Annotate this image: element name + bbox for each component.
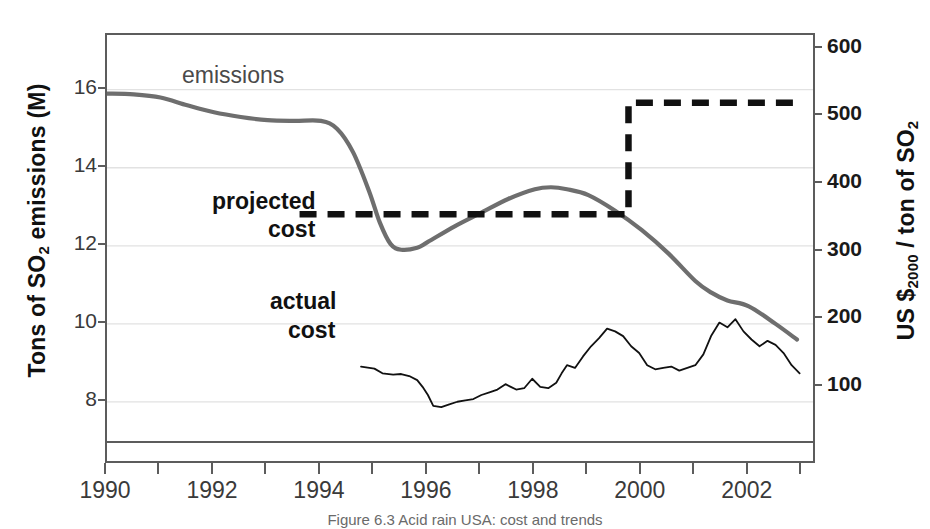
series-layer [107, 94, 800, 408]
x-axis-riser [813, 443, 815, 461]
figure-caption: Figure 6.3 Acid rain USA: cost and trend… [0, 511, 930, 529]
y-axis-left-tick-mark [98, 321, 105, 323]
x-axis-tick-mark [318, 463, 320, 474]
y-axis-left-tick-label: 8 [53, 387, 97, 411]
y-axis-right-tick-mark [815, 181, 822, 183]
y-axis-right-tick-label: 600 [827, 34, 887, 58]
y-axis-left-title-prefix: Tons of SO [24, 255, 50, 378]
x-axis-tick-mark [532, 463, 534, 474]
x-axis-tick-label: 2000 [600, 477, 680, 504]
x-axis-tick-label: 1996 [386, 477, 466, 504]
x-axis-tick-mark [478, 463, 480, 474]
annotation-actual-cost-line1: actual [270, 288, 336, 315]
acid-rain-figure: Tons of SO2 emissions (M) US $2000 / ton… [0, 0, 930, 529]
y-axis-right-tick-mark [815, 384, 822, 386]
annotation-projected-cost-line1: projected [212, 188, 316, 215]
y-axis-right-title-suffix: / ton of SO [893, 129, 919, 254]
y-axis-left-title-sub: 2 [35, 246, 52, 255]
y-axis-left-tick-label: 12 [53, 231, 97, 255]
x-axis-tick-label: 1994 [279, 477, 359, 504]
x-axis-riser [105, 443, 107, 461]
y-axis-right-tick-mark [815, 249, 822, 251]
y-axis-left-title-suffix: emissions (M) [24, 83, 50, 246]
y-axis-right-title: US $2000 / ton of SO2 [893, 31, 920, 431]
y-axis-left-tick-mark [98, 243, 105, 245]
y-axis-right-tick-label: 300 [827, 237, 887, 261]
y-axis-right-tick-label: 100 [827, 372, 887, 396]
gridlines [107, 90, 813, 402]
y-axis-left-tick-mark [98, 399, 105, 401]
series-projected-cost [300, 103, 800, 215]
y-axis-right-title-prefix: US $ [893, 288, 919, 340]
series-actual-cost [361, 319, 800, 407]
x-axis-tick-mark [371, 463, 373, 474]
x-axis-tick-mark [639, 463, 641, 474]
x-axis-tick-mark [692, 463, 694, 474]
annotation-actual-cost-line2: cost [288, 317, 335, 344]
y-axis-left-tick-label: 16 [53, 75, 97, 99]
y-axis-left-tick-label: 10 [53, 309, 97, 333]
y-axis-left-tick-mark [98, 165, 105, 167]
x-axis-tick-label: 1998 [493, 477, 573, 504]
y-axis-right-tick-label: 400 [827, 169, 887, 193]
y-axis-right-tick-mark [815, 46, 822, 48]
x-axis-tick-mark [746, 463, 748, 474]
y-axis-right-title-sub: 2000 [904, 254, 921, 288]
x-axis-tick-mark [264, 463, 266, 474]
annotation-emissions: emissions [182, 62, 284, 89]
y-axis-right-tick-label: 500 [827, 101, 887, 125]
x-axis-tick-label: 1992 [172, 477, 252, 504]
plot-area [105, 33, 815, 443]
y-axis-right-tick-label: 200 [827, 304, 887, 328]
y-axis-left-tick-label: 14 [53, 153, 97, 177]
y-axis-right-title-sub2: 2 [904, 121, 921, 130]
x-axis-tick-mark [425, 463, 427, 474]
y-axis-right-tick-mark [815, 113, 822, 115]
x-axis-tick-mark [157, 463, 159, 474]
x-axis-tick-mark [585, 463, 587, 474]
y-axis-right-tick-mark [815, 316, 822, 318]
plot-svg [107, 35, 813, 441]
x-axis-tick-label: 1990 [65, 477, 145, 504]
x-axis-tick-label: 2002 [707, 477, 787, 504]
y-axis-left-tick-mark [98, 87, 105, 89]
x-axis-tick-mark [211, 463, 213, 474]
x-axis-tick-mark [799, 463, 801, 474]
annotation-projected-cost-line2: cost [268, 216, 315, 243]
y-axis-left-title: Tons of SO2 emissions (M) [24, 31, 51, 431]
x-axis-tick-mark [104, 463, 106, 474]
